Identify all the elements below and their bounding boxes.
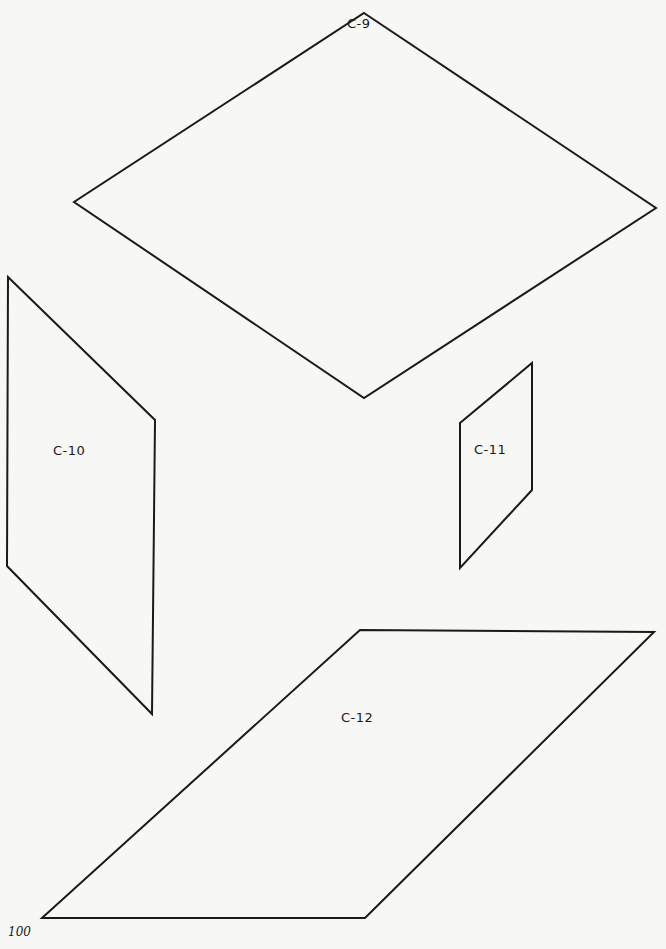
shapes-canvas — [0, 0, 666, 949]
label-c9: C-9 — [347, 16, 371, 31]
parallelogram-c11 — [460, 363, 532, 568]
label-c10: C-10 — [53, 443, 85, 458]
parallelogram-c10 — [7, 277, 155, 714]
label-c12: C-12 — [341, 710, 373, 725]
parallelogram-c9 — [74, 13, 656, 398]
label-c11: C-11 — [474, 442, 506, 457]
page-number: 100 — [8, 925, 31, 939]
parallelogram-c12 — [42, 630, 654, 918]
